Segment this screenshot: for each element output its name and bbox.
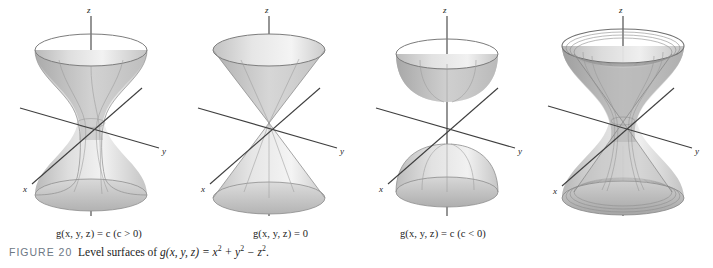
caption-prefix: Level surfaces of — [78, 246, 160, 258]
x-axis-label: x — [22, 184, 27, 194]
x-axis-label: x — [200, 184, 205, 194]
panel-label-text: g(x, y, z) = 0 — [253, 228, 308, 239]
surface-panel-double-cone: z x y — [180, 2, 358, 224]
z-axis-label: z — [618, 5, 623, 15]
surface-panel-hyperboloid-one-sheet: z x y — [2, 2, 180, 224]
panel-label-c-positive: g(x, y, z) = c (c > 0) — [56, 228, 142, 239]
figure-caption: FIGURE 20 Level surfaces of g(x, y, z) =… — [9, 246, 269, 258]
y-axis-label: y — [694, 146, 699, 156]
x-axis-label: x — [552, 186, 557, 196]
panel-label-c-negative: g(x, y, z) = c (c < 0) — [400, 228, 486, 239]
z-axis-label: z — [264, 5, 269, 15]
caption-minus-z: − z — [244, 246, 262, 258]
x-axis-label: x — [378, 184, 383, 194]
y-axis-line — [376, 108, 515, 148]
y-axis-label: y — [339, 146, 344, 156]
z-axis-label: z — [442, 5, 447, 15]
panel-label-text: g(x, y, z) = c (c > 0) — [56, 228, 142, 239]
caption-plus-y: + y — [222, 246, 241, 258]
y-axis-label: y — [161, 146, 166, 156]
panel-label-c-zero: g(x, y, z) = 0 — [253, 228, 308, 239]
caption-function: g(x, y, z) = x — [160, 246, 218, 258]
panel-label-text: g(x, y, z) = c (c < 0) — [400, 228, 486, 239]
y-axis-label: y — [517, 146, 522, 156]
figure-number-tag: FIGURE 20 — [9, 246, 72, 258]
z-axis-label: z — [86, 5, 91, 15]
lower-rim-ellipse — [35, 179, 147, 211]
outer-lower-rim — [562, 181, 684, 215]
caption-period: . — [266, 246, 269, 258]
figure-panel: z x y — [0, 0, 713, 268]
surface-panel-all-superimposed: z x y — [534, 2, 712, 224]
surface-panel-hyperboloid-two-sheets: z x y — [358, 2, 536, 224]
